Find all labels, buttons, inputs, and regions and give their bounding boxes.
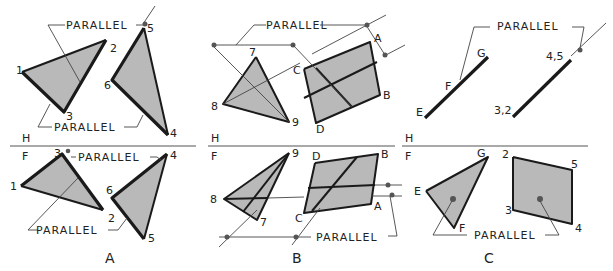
parallel-label: PARALLEL [497,20,559,33]
point-label: F [459,222,465,235]
point-label: 7 [249,46,256,59]
fold-label-f-c: F [405,150,411,163]
panel-b: PARALLEL 7 8 9 A B C D 9 8 7 [210,15,405,266]
point-label: 3,2 [494,104,512,117]
point-label: B [383,89,391,102]
fold-label-f-a: F [22,150,28,163]
parallel-label: PARALLEL [78,151,140,164]
parallel-label: PARALLEL [316,231,378,244]
point-label: 8 [210,193,217,206]
point-label: 1 [10,180,17,193]
caption-b: B [292,250,302,266]
panel-a-top-triangle-564 [112,28,168,135]
point-label: 5 [571,158,578,171]
panel-c-top-edge-2345 [513,60,571,117]
point-label: A [374,200,382,213]
point-marker [383,53,388,58]
point-label: 3 [505,204,512,217]
point-marker [212,43,217,48]
point-label: 4,5 [546,50,564,63]
point-marker [225,235,230,240]
point-marker [390,193,395,198]
fold-label-h-c: H [405,132,413,145]
point-label: 2 [502,148,509,161]
point-marker [294,235,299,240]
panel-c-front-triangle-efg [426,157,488,228]
panel-a-top-triangle-123 [22,40,106,112]
panel-b-top-quad-abcd [304,42,380,123]
point-label: D [312,150,320,163]
point-label: 9 [292,116,299,129]
point-marker [578,48,583,53]
point-label: 5 [148,232,155,245]
point-label: 3 [66,110,73,123]
point-marker [365,23,370,28]
point-label: 5 [147,22,154,35]
point-label: A [374,32,382,45]
point-label: C [293,64,301,77]
point-label: 4 [170,149,177,162]
point-label: B [381,148,389,161]
point-label: C [295,212,303,225]
descriptive-geometry-figure: H F H F H F PARALLEL PARALLEL 1 2 3 5 [0,0,613,271]
panel-c: PARALLEL E F G 4,5 3,2 E G F 2 5 3 4 PAR… [414,20,606,266]
parallel-label: PARALLEL [36,224,98,237]
point-label: G [477,47,486,60]
point-label: F [445,80,451,93]
point-label: D [316,123,324,136]
fold-label-h-b: H [211,132,219,145]
panel-c-top-edge-efg [425,57,488,118]
point-label: 4 [170,127,177,140]
point-label: 9 [292,147,299,160]
parallel-label: PARALLEL [266,19,328,32]
caption-c: C [484,250,494,266]
point-label: 2 [110,42,117,55]
point-label: 8 [211,100,218,113]
point-label: E [414,185,421,198]
point-marker [66,149,71,154]
panel-a: PARALLEL PARALLEL 1 2 3 5 6 4 PARALLEL P… [10,6,177,266]
point-marker [450,196,456,202]
point-label: E [416,106,423,119]
point-label: 6 [104,79,111,92]
panel-c-front-quad-2543 [513,157,572,224]
fold-label-h-a: H [22,132,30,145]
parallel-label: PARALLEL [66,19,128,32]
point-label: 7 [260,216,267,229]
fold-label-f-b: F [211,150,217,163]
point-label: 1 [16,64,23,77]
point-label: 3 [54,147,61,160]
point-label: 4 [575,222,582,235]
caption-a: A [105,250,115,266]
point-label: 2 [108,212,115,225]
point-label: G [477,147,486,160]
point-marker [386,183,391,188]
point-label: 6 [106,184,113,197]
parallel-label: PARALLEL [474,229,536,242]
parallel-label: PARALLEL [54,121,116,134]
